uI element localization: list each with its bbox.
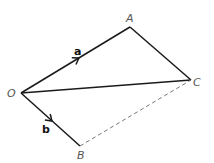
vector-label-b: b [42, 123, 50, 136]
vector-diagram: O A C B a b [0, 0, 214, 163]
segment-BC-dashed [80, 80, 191, 146]
point-label-B: B [77, 149, 85, 162]
point-label-O: O [7, 87, 16, 100]
point-label-A: A [125, 12, 134, 25]
segment-OC [21, 80, 191, 93]
segment-OA [21, 27, 130, 93]
segment-AC [130, 27, 191, 80]
point-label-C: C [193, 76, 201, 89]
vector-label-a: a [74, 45, 81, 58]
segment-OB [21, 93, 80, 146]
